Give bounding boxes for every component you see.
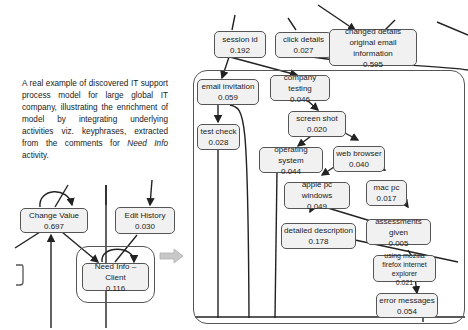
node-apple-pc-windows[interactable]: apple pc windows0.049	[284, 182, 350, 209]
node-label: click details	[278, 34, 329, 45]
node-session-id[interactable]: session id0.192	[214, 31, 266, 58]
node-mac-pc[interactable]: mac pc0.017	[366, 180, 407, 206]
node-value: 0.021	[376, 278, 433, 287]
node-value: 0.044	[262, 166, 320, 177]
node-value: 0.028	[200, 137, 237, 148]
node-value: 0.192	[217, 45, 263, 56]
node-change-value[interactable]: Change Value0.697	[20, 208, 88, 233]
node-value: 0.059	[200, 92, 256, 103]
node-changed-details[interactable]: changed details original email informati…	[329, 29, 417, 66]
node-label: Need Info – Client	[85, 261, 146, 283]
node-value: 0.005	[369, 238, 428, 249]
node-label: test check	[200, 126, 237, 137]
node-web-browser[interactable]: web browser0.040	[333, 146, 385, 172]
node-value: 0.595	[332, 59, 414, 70]
node-label: company testing	[273, 72, 327, 94]
node-assessments-given[interactable]: assessments given0.005	[366, 219, 431, 245]
node-label: error messages	[379, 295, 435, 306]
node-detailed-description[interactable]: detailed description0.178	[281, 223, 356, 249]
node-label: detailed description	[284, 225, 353, 236]
node-need-info-client[interactable]: Need Info – Client0.116	[82, 263, 149, 291]
node-test-check[interactable]: test check0.028	[197, 124, 240, 150]
node-label: Change Value	[23, 210, 85, 221]
node-label: operating system	[262, 144, 320, 166]
node-edit-history[interactable]: Edit History0.030	[115, 207, 175, 234]
node-using-mozilla[interactable]: using mozilla firefox internet explorer0…	[373, 255, 436, 282]
node-value: 0.054	[379, 306, 435, 317]
node-label: mac pc	[369, 182, 404, 193]
node-label: web browser	[336, 148, 382, 159]
node-value: 0.030	[118, 221, 172, 232]
node-value: 0.178	[284, 236, 353, 247]
node-value: 0.017	[369, 193, 404, 204]
node-label: using mozilla firefox internet explorer	[376, 251, 433, 278]
node-value: 0.046	[273, 94, 327, 105]
node-label: changed details original email informati…	[332, 26, 414, 59]
node-value: 0.027	[278, 45, 329, 56]
node-screen-shot[interactable]: screen shot0.020	[288, 111, 346, 137]
node-company-testing[interactable]: company testing0.046	[270, 75, 330, 101]
node-value: 0.697	[23, 221, 85, 232]
node-label: screen shot	[291, 113, 343, 124]
node-error-messages[interactable]: error messages0.054	[376, 293, 438, 318]
node-value: 0.020	[291, 124, 343, 135]
transition-arrow-icon	[160, 249, 183, 263]
node-label: Edit History	[118, 210, 172, 221]
node-click-details[interactable]: click details0.027	[275, 32, 332, 58]
node-value: 0.049	[287, 201, 347, 212]
node-label: assessments given	[369, 216, 428, 238]
node-label: apple pc windows	[287, 179, 347, 201]
node-label: email invitation	[200, 81, 256, 92]
node-value: 0.040	[336, 159, 382, 170]
node-value: 0.116	[85, 283, 146, 294]
node-label: session id	[217, 34, 263, 45]
node-operating-system[interactable]: operating system0.044	[259, 147, 323, 173]
node-email-invitation[interactable]: email invitation0.059	[197, 79, 259, 105]
